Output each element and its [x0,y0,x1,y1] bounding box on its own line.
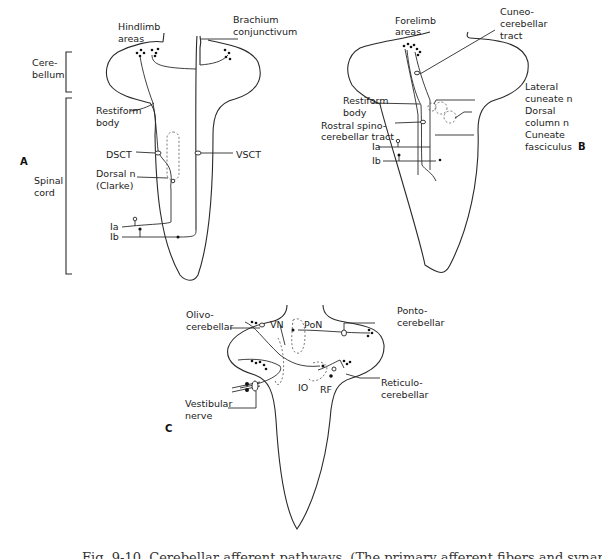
dsct-marker [155,151,161,155]
cuneo-pointer [420,30,495,74]
label-dorsal-n-clarke: Dorsal n [96,168,135,179]
label-cerebellum-2: bellum [32,69,64,80]
label-lateral-cuneate-n: Lateral [525,81,558,92]
ponto-pointer [344,323,375,330]
label-rostral-spinocerebellar-2: cerebellar tract [321,131,394,142]
label-vestibular-nerve: Vestibular [185,398,232,409]
label-spinal-cord-2: cord [34,187,55,198]
dorsal-column-pointer [455,112,472,118]
label-vn: VN [270,319,284,330]
label-pon: PoN [304,319,322,330]
inferior-olive [308,362,327,381]
panel-b: Forelimb areas Cuneo- cerebellar tract L… [321,6,586,273]
vestibular-ganglion [252,381,258,391]
label-lateral-cuneate-n-2: cuneate n [525,93,573,104]
label-olivo-cerebellar: Olivo- [186,309,214,320]
vestibular-nuclei [275,338,284,385]
lateral-cuneate-nucleus [428,103,436,111]
label-forelimb-areas: Forelimb [395,15,436,26]
label-dorsal-column-n-2: column n [525,117,569,128]
panel-a-letter: A [20,156,28,167]
label-ponto-cerebellar: Ponto- [397,305,427,316]
label-ia-b: Ia [372,141,381,152]
panel-c-outline [228,305,384,529]
clarke-column [167,132,179,180]
lateral-cuneate-pointer [434,100,475,104]
label-dorsal-n-clarke-2: (Clarke) [96,180,133,191]
dsct-pointer [136,152,155,153]
label-dorsal-column-n: Dorsal [525,105,555,116]
label-rostral-spinocerebellar: Rostral spino- [321,120,386,131]
label-spinal-cord: Spinal [34,175,63,186]
cerebellum-bracket [66,52,72,92]
label-ib-b: Ib [372,155,381,166]
label-vestibular-nerve-2: nerve [185,410,212,421]
label-restiform-body: Restiform [96,105,141,116]
label-cerebellum: Cere- [32,57,57,68]
label-cuneo-cerebellar-tract: Cuneo- [500,6,534,17]
label-vsct: VSCT [236,149,261,160]
label-restiform-body-2: body [96,117,120,128]
panel-a-outline [106,40,260,280]
pontine-nuclei [292,319,305,353]
ia-ganglion [133,217,137,221]
ponto-marker [342,330,347,336]
vestibular-fiber [238,359,281,388]
label-cuneate-fasciculus: Cuneate [525,129,565,140]
rostral-marker [421,120,426,124]
vsct-fiber [122,230,196,237]
label-reticulo-cerebellar-2: cerebellar [381,389,429,400]
label-rf: RF [320,384,332,395]
olivo-marker [260,323,265,327]
label-brachium-conjunctivum-2: conjunctivum [233,26,297,37]
brachium-terminal-fiber [200,55,228,65]
label-dsct: DSCT [106,149,132,160]
dorsal-column-nucleus-1 [435,102,447,114]
vsct-marker [195,151,201,155]
label-brachium-conjunctivum: Brachium [233,14,278,25]
panel-b-outline [348,32,528,273]
dorsal-n-pointer [137,177,168,178]
ponto-cerebellar-fiber [298,330,370,333]
panel-b-letter: B [578,141,586,152]
reticulo-pointer [346,374,380,378]
clarke-cell [171,179,175,183]
label-hindlimb-areas-2: areas [118,33,144,44]
restiform-fiber [405,49,418,175]
cerebellar-afferent-diagram: Hindlimb areas Brachium conjunctivum Cer… [0,0,602,559]
label-ib: Ib [110,231,119,242]
label-cuneo-cerebellar-tract-3: tract [500,30,523,41]
figure-caption: Fig. 9-10. Cerebellar afferent pathways.… [82,547,602,559]
brachium-conjunctivum-fiber [196,36,201,230]
label-cuneate-fasciculus-2: fasciculus [525,141,572,152]
spinal-cord-bracket [66,98,72,274]
dsct-fiber [122,56,171,227]
rf-marker [332,367,336,371]
label-hindlimb-areas: Hindlimb [118,21,160,32]
hindlimb-terminals [136,48,232,61]
label-reticulo-cerebellar: Reticulo- [381,377,423,388]
label-cuneo-cerebellar-tract-2: cerebellar [500,18,548,29]
label-olivo-cerebellar-2: cerebellar [186,321,234,332]
label-restiform-body-b-2: body [343,107,367,118]
cuneo-marker [415,71,420,75]
label-restiform-body-b: Restiform [343,95,388,106]
panel-a: Hindlimb areas Brachium conjunctivum Cer… [20,14,297,280]
label-forelimb-areas-2: areas [395,26,421,37]
panel-c-letter: C [165,423,172,434]
label-ponto-cerebellar-2: cerebellar [397,317,445,328]
hindlimb-to-bc-fiber [152,55,196,69]
dorsal-column-nucleus-2 [444,111,456,123]
rostral-pointer [395,122,421,123]
panel-c: Olivo- cerebellar VN PoN Ponto- cerebell… [165,305,445,529]
label-io: IO [298,382,308,393]
hindlimb-pointer [163,33,164,42]
